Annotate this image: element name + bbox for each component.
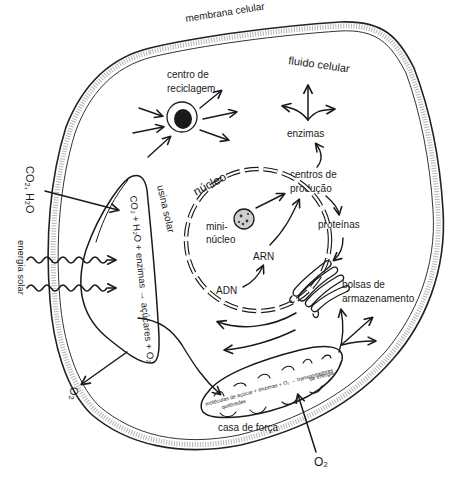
recycling-center	[133, 91, 236, 157]
mini-nucleus	[234, 209, 254, 229]
dna-label: ADN	[216, 285, 237, 296]
production-centers-label-1: centros de	[290, 169, 337, 180]
storage-export-arrows	[339, 310, 375, 352]
membrane-label: membrana celular	[185, 0, 266, 23]
recycling-center-label-1: centro de	[167, 69, 209, 80]
nucleus-label: núcleo	[191, 170, 229, 199]
o2-left-label: O₂	[68, 387, 80, 400]
fluid-label: fluido celular	[288, 54, 351, 75]
production-centers-label-2: produção	[290, 183, 332, 194]
enzymes-label: enzimas	[287, 128, 324, 139]
solar-plant-label: usina solar	[155, 184, 177, 234]
mini-nucleus-label-1: mini-	[206, 221, 228, 232]
solar-energy-label: energia solar	[16, 240, 27, 295]
plant-cell-diagram: membrana celular fluido celular centro d…	[0, 0, 459, 478]
solar-energy-arrows	[27, 257, 115, 291]
power-house-label: casa de força	[218, 422, 278, 433]
recycling-center-label-2: reciclagem	[167, 83, 215, 94]
proteins-label: proteínas	[318, 219, 360, 230]
o2-bottom-label: O₂	[314, 455, 328, 469]
enzymes-arrows	[283, 86, 334, 120]
storage-label-2: armazenamento	[342, 293, 415, 304]
solar-equation: CO₂ + H₂O + enzimas → açúcares + O₂	[128, 195, 157, 364]
power-equation-1: moléculas de açúcar + enzimas + O₂ → tra…	[205, 367, 334, 407]
storage-label-1: bolsas de	[342, 279, 385, 290]
mini-nucleus-label-2: núcleo	[206, 234, 236, 245]
golgi-apparatus	[290, 261, 349, 318]
co2-h2o-label: CO₂, H₂O	[24, 166, 36, 214]
rna-label: ARN	[253, 251, 274, 262]
